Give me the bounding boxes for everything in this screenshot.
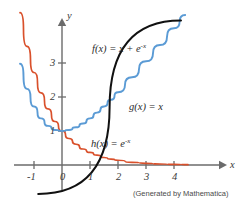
figure-caption: (Generated by Mathematica): [133, 190, 228, 198]
h-label: h(x) = e-x: [91, 139, 130, 150]
y-tick-label-3: 3: [50, 58, 55, 69]
h-label-exponent: -x: [125, 137, 130, 145]
x-tick-label-0: 0: [60, 172, 65, 183]
g-label: g(x) = x: [129, 102, 163, 113]
curve-f-x-plus-exp-neg-x: [20, 15, 185, 131]
g-label-text: g(x) = x: [129, 101, 163, 112]
x-tick-label-2: 2: [116, 172, 121, 183]
y-tick-label-2: 2: [50, 92, 55, 103]
y-axis-arrow-icon: [58, 18, 66, 26]
x-tick-label-1: 1: [88, 172, 93, 183]
y-axis-label: y: [67, 11, 72, 22]
y-tick-label-1: 1: [50, 126, 55, 137]
x-tick-label-3: 3: [144, 172, 149, 183]
f-label: f(x) = x + e-x: [92, 44, 146, 55]
h-label-text: h(x) = e: [91, 138, 125, 149]
plot-canvas: [0, 0, 244, 205]
f-label-exponent: -x: [141, 42, 146, 50]
x-tick-label-4: 4: [172, 172, 177, 183]
x-axis-label: x: [230, 160, 235, 171]
x-tick-label--1: -1: [27, 172, 36, 183]
f-label-text: f(x) = x + e: [92, 43, 141, 54]
mathematica-figure: -101234 123 x y f(x) = x + e-xg(x) = xh(…: [0, 0, 244, 205]
x-axis-arrow-icon: [219, 161, 227, 169]
